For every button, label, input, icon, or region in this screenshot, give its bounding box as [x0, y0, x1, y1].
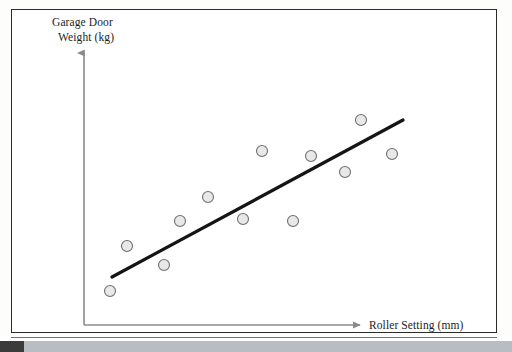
data-point	[306, 151, 317, 162]
axes-group	[84, 53, 360, 325]
data-point	[159, 260, 170, 271]
screenshot-root: Garage Door Weight (kg) Roller Setting (…	[0, 0, 512, 352]
trend-line	[112, 120, 403, 277]
data-point	[175, 216, 186, 227]
y-axis-label-line1: Garage Door	[52, 16, 113, 28]
data-point	[203, 192, 214, 203]
data-point	[105, 286, 116, 297]
data-point	[387, 149, 398, 160]
scatter-plot-canvas	[0, 0, 512, 352]
data-point	[356, 115, 367, 126]
data-point	[238, 214, 249, 225]
y-axis-label: Garage Door Weight (kg)	[52, 15, 114, 44]
y-axis-label-line2: Weight (kg)	[52, 30, 114, 45]
trend-line-group	[112, 120, 403, 277]
bottom-left-dark-block	[0, 341, 24, 352]
bottom-gray-strip	[0, 341, 512, 352]
x-axis-label: Roller Setting (mm)	[369, 318, 464, 333]
green-separator-rule	[11, 337, 497, 338]
data-point	[257, 146, 268, 157]
data-point-group	[105, 115, 398, 297]
data-point	[122, 241, 133, 252]
data-point	[288, 216, 299, 227]
data-point	[340, 167, 351, 178]
